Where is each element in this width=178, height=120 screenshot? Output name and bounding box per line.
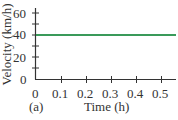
x-axis-label: Time (h) [84,100,129,113]
x-tick-0.1: 0.1 [52,87,68,100]
y-axis-label: Velocity (km/h) [0,0,13,95]
x-tick-0.5: 0.5 [152,87,168,100]
y-tick-40: 40 [13,28,26,41]
y-tick-60: 60 [13,7,26,20]
panel-label: (a) [29,100,43,113]
y-tick-20: 20 [13,51,26,64]
x-tick-0.4: 0.4 [127,87,143,100]
y-tick-0: 0 [20,73,27,86]
